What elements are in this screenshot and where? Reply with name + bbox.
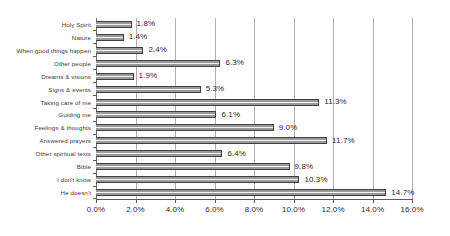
category-label: When good things happen [16, 47, 91, 54]
bar-value-label: 10.3% [304, 175, 327, 184]
bar [96, 34, 124, 41]
bar-value-label: 14.7% [391, 188, 414, 197]
bar-value-label: 6.3% [225, 58, 244, 67]
bar-row: I don't know10.3% [96, 173, 412, 186]
bar-row: Other spiritual texts6.4% [96, 147, 412, 160]
category-label: Answered prayers [40, 137, 91, 144]
x-axis-tick-label: 16.0% [400, 205, 423, 214]
bar-chart: Holy Spirit1.8%Nature1.4%When good thing… [0, 0, 450, 236]
x-axis-tick [333, 199, 334, 203]
bar-row: Holy Spirit1.8% [96, 18, 412, 31]
category-label: Feelings & thoughts [34, 124, 91, 131]
x-axis-tick-label: 14.0% [361, 205, 384, 214]
bar [96, 73, 134, 80]
x-axis-tick [136, 199, 137, 203]
bar [96, 21, 132, 28]
bar [96, 47, 143, 54]
category-label: Holy Spirit [62, 21, 91, 28]
bar-value-label: 11.7% [332, 136, 355, 145]
x-axis-tick [175, 199, 176, 203]
category-label: Signs & events [48, 86, 91, 93]
bar-row: Taking care of me11.3% [96, 96, 412, 109]
bar [96, 150, 222, 157]
bar-row: Bible9.8% [96, 160, 412, 173]
category-label: Other people [54, 60, 91, 67]
category-label: Guiding me [58, 111, 91, 118]
category-label: He doesn't [61, 189, 91, 196]
x-axis-tick [254, 199, 255, 203]
x-axis-tick [215, 199, 216, 203]
bar-row: Answered prayers11.7% [96, 134, 412, 147]
bar-value-label: 6.1% [221, 110, 240, 119]
x-axis-tick-label: 12.0% [321, 205, 344, 214]
bar [96, 60, 220, 67]
bar [96, 189, 386, 196]
bar-value-label: 5.3% [206, 84, 225, 93]
bar [96, 137, 327, 144]
bar-row: When good things happen2.4% [96, 44, 412, 57]
category-label: Other spiritual texts [36, 150, 91, 157]
bar-value-label: 9.0% [279, 123, 298, 132]
x-axis-tick-label: 4.0% [166, 205, 185, 214]
bar-row: Other people6.3% [96, 57, 412, 70]
x-axis-tick-label: 2.0% [126, 205, 145, 214]
bar-value-label: 11.3% [324, 97, 347, 106]
bar-row: Guiding me6.1% [96, 109, 412, 122]
bar-row: Dreams & visions1.9% [96, 70, 412, 83]
plot-area: Holy Spirit1.8%Nature1.4%When good thing… [96, 18, 412, 199]
bar [96, 176, 299, 183]
bar-row: Nature1.4% [96, 31, 412, 44]
gridline [412, 18, 413, 199]
x-axis-tick [412, 199, 413, 203]
bar-value-label: 1.8% [137, 19, 156, 28]
category-label: Bible [77, 163, 91, 170]
category-label: Taking care of me [40, 99, 91, 106]
x-axis-tick-label: 8.0% [245, 205, 264, 214]
bar-value-label: 6.4% [227, 149, 246, 158]
category-label: Dreams & visions [41, 73, 91, 80]
bar [96, 163, 290, 170]
bar [96, 111, 216, 118]
category-label: I don't know [57, 176, 91, 183]
x-axis-tick-label: 6.0% [205, 205, 224, 214]
bar-value-label: 1.4% [129, 32, 148, 41]
bar [96, 124, 274, 131]
x-axis-tick-label: 10.0% [282, 205, 305, 214]
bar-row: Signs & events5.3% [96, 83, 412, 96]
bar [96, 99, 319, 106]
bar-value-label: 9.8% [295, 162, 314, 171]
category-label: Nature [72, 34, 91, 41]
x-axis-tick [96, 199, 97, 203]
x-axis-tick [294, 199, 295, 203]
bar-row: He doesn't14.7% [96, 186, 412, 199]
bar-row: Feelings & thoughts9.0% [96, 121, 412, 134]
bar [96, 86, 201, 93]
bar-value-label: 1.9% [139, 71, 158, 80]
x-axis-tick [373, 199, 374, 203]
bar-value-label: 2.4% [148, 45, 167, 54]
x-axis-tick-label: 0.0% [87, 205, 106, 214]
